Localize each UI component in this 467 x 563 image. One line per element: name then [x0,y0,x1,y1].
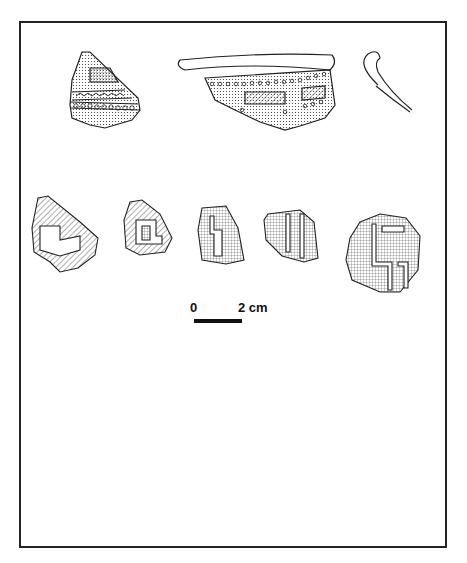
sherd-illustration [0,0,467,563]
sherd-stepped-3 [198,206,244,264]
sherd-stepped-2 [124,200,172,255]
sherd-chevron-band [70,52,140,128]
scale-end-label: 2 cm [238,300,268,315]
sherd-stepped-5 [346,214,420,292]
rim-sherd-rectangles [178,54,335,130]
scale-bar [194,319,242,323]
rim-profile-1 [364,52,412,112]
sherd-stepped-1 [32,196,98,272]
sherd-stepped-4 [264,210,318,262]
scale-start-label: 0 [190,300,197,315]
